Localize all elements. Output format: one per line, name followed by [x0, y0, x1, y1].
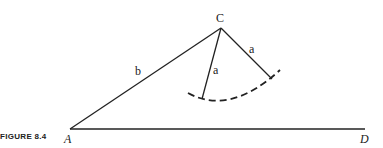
segment-label-a-right: a: [249, 43, 254, 55]
geometry-figure: [0, 0, 383, 148]
segment-ac: [70, 28, 221, 129]
figure-caption: FIGURE 8.4: [0, 132, 47, 141]
segment-label-a-left: a: [213, 64, 218, 76]
point-label-a: A: [64, 133, 71, 145]
dashed-arc: [188, 70, 280, 101]
segment-radius-right: [221, 28, 272, 79]
point-label-c: C: [216, 12, 224, 24]
point-label-d: D: [360, 133, 369, 145]
segment-label-b: b: [135, 65, 141, 77]
